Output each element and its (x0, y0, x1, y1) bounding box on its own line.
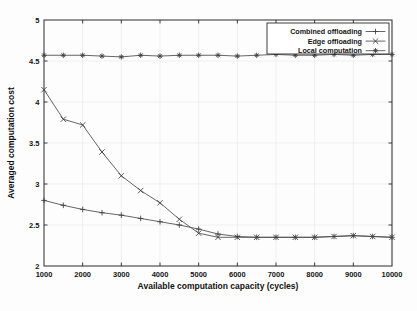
legend-label-3: Local computation (298, 46, 362, 55)
x-tick-label: 5000 (190, 270, 207, 279)
series-1 (42, 198, 395, 240)
y-tick-label: 5 (35, 16, 39, 25)
x-tick-labels: 1000200030004000500060007000800090001000… (36, 270, 403, 279)
x-tick-label: 1000 (36, 270, 53, 279)
x-tick-label: 9000 (345, 270, 362, 279)
y-tick-label: 4 (35, 98, 40, 107)
x-tick-label: 2000 (74, 270, 91, 279)
chart-legend: Combined offloadingEdge offloadingLocal … (267, 23, 389, 55)
x-tick-label: 7000 (268, 270, 285, 279)
legend-label-1: Combined offloading (290, 27, 362, 36)
x-tick-label: 10000 (382, 270, 403, 279)
y-tick-label: 3 (35, 180, 39, 189)
data-series (42, 52, 395, 240)
y-tick-labels: 22.533.544.55 (29, 16, 40, 271)
series-2 (42, 87, 395, 239)
y-tick-label: 4.5 (29, 57, 39, 66)
x-tick-label: 3000 (113, 270, 130, 279)
x-axis-title: Available computation capacity (cycles) (138, 281, 299, 291)
x-tick-label: 6000 (229, 270, 246, 279)
y-tick-label: 2.5 (29, 221, 39, 230)
y-tick-label: 2 (35, 262, 39, 271)
line-chart: 1000200030004000500060007000800090001000… (0, 0, 417, 311)
x-tick-label: 8000 (306, 270, 323, 279)
x-tick-label: 4000 (152, 270, 169, 279)
y-axis-title: Averaged computation cost (6, 87, 16, 199)
y-tick-label: 3.5 (29, 139, 39, 148)
chart-figure: 1000200030004000500060007000800090001000… (0, 0, 417, 311)
legend-label-2: Edge offloading (308, 37, 362, 46)
